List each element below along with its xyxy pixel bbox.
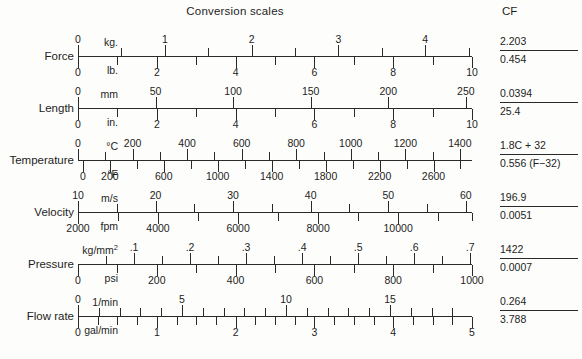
cf-denominator: 0.0051 (500, 208, 580, 223)
axis-tick-label: 0 (80, 170, 86, 182)
axis-tick-label: 1000 (206, 170, 229, 182)
axis-tick (353, 161, 354, 169)
axis-tick-label: 10 (280, 293, 292, 305)
axis-tick (105, 152, 106, 160)
axis-tick-label: 3 (335, 33, 341, 45)
axis-tick-label: 10 (72, 189, 84, 201)
cf-denominator: 0.454 (500, 52, 580, 67)
axis-tick-label: 5 (179, 293, 185, 305)
axis-tick (78, 97, 79, 108)
cf-fraction-bar (500, 258, 578, 259)
axis-tick-label: 4000 (146, 222, 169, 234)
scale-track: 102030405060200040006000800010000 (78, 186, 472, 238)
axis-tick (296, 149, 297, 160)
axis-tick-label: 200 (101, 170, 119, 182)
cf-fraction-bar (500, 310, 578, 311)
axis-tick (78, 149, 79, 160)
axis-tick (120, 308, 121, 316)
axis-tick-label: 2000 (66, 222, 89, 234)
axis-tick-label: 50 (150, 85, 162, 97)
axis-tick (427, 204, 428, 212)
axis-tick (216, 317, 217, 325)
axis-tick (242, 149, 243, 160)
axis-tick-label: 2 (249, 33, 255, 45)
scale-track: .1.2.3.4.5.6.702004006008001000 (78, 238, 472, 290)
axis-tick (196, 57, 197, 65)
axis-tick (134, 253, 135, 264)
axis-tick (137, 317, 138, 325)
axis-tick (98, 317, 99, 325)
axis-tick (311, 97, 312, 108)
axis-tick (214, 152, 215, 160)
axis-tick (358, 253, 359, 264)
axis-tick-label: 30 (227, 189, 239, 201)
axis-tick-label: 0 (75, 137, 81, 149)
axis-tick (386, 256, 387, 264)
axis-tick (390, 305, 391, 316)
axis-tick (388, 97, 389, 108)
axis-tick (196, 109, 197, 117)
axis-tick (165, 45, 166, 56)
axis-tick-label: 600 (155, 170, 173, 182)
axis-tick (246, 253, 247, 264)
axis-tick (286, 305, 287, 316)
axis-tick (99, 308, 100, 316)
axis-tick-label: 10 (466, 118, 478, 130)
axis-tick (374, 317, 375, 325)
scale-row-label: Flow rate (0, 310, 74, 322)
axis-tick-label: .1 (130, 241, 139, 253)
axis-tick (470, 253, 471, 264)
axis-tick (311, 201, 312, 212)
axis-tick (405, 149, 406, 160)
axis-tick (348, 308, 349, 316)
conversion-scales-sheet: Conversion scales CF Forcekg.lb.01234024… (0, 0, 582, 359)
axis-tick (198, 213, 199, 221)
axis-tick-label: 1800 (314, 170, 337, 182)
cf-denominator: 3.788 (500, 312, 580, 327)
axis-tick (117, 204, 118, 212)
cf-fraction-bar (500, 154, 578, 155)
axis-tick (203, 308, 204, 316)
cf-denominator: 25.4 (500, 104, 580, 119)
cf-fraction-bar (500, 50, 578, 51)
axis-tick-label: 4 (390, 326, 396, 338)
axis-tick (255, 317, 256, 325)
axis-tick-label: 1 (162, 33, 168, 45)
cf-numerator: 1422 (500, 242, 580, 257)
axis-tick (472, 213, 473, 221)
scale-row-label: Temperature (0, 154, 74, 166)
axis-tick (433, 109, 434, 117)
axis-tick (275, 57, 276, 65)
axis-tick-label: .4 (298, 241, 307, 253)
axis-tick (369, 308, 370, 316)
axis-tick (460, 161, 461, 169)
axis-tick (274, 256, 275, 264)
scale-row-label: Pressure (0, 258, 74, 270)
axis-tick-label: 100 (224, 85, 242, 97)
axis-tick-label: 800 (384, 274, 402, 286)
cf-numerator: 0.264 (500, 294, 580, 309)
axis-tick (334, 317, 335, 325)
axis-tick-label: 1 (154, 326, 160, 338)
axis-tick (388, 201, 389, 212)
axis-tick-label: 0 (75, 274, 81, 286)
scale-track: 051015012345 (78, 290, 472, 342)
axis-tick (224, 308, 225, 316)
axis-tick-label: 1400 (260, 170, 283, 182)
axis-tick-label: 3 (311, 326, 317, 338)
axis-tick (269, 152, 270, 160)
axis-tick-label: 40 (305, 189, 317, 201)
axis-tick (272, 204, 273, 212)
axis-tick (208, 48, 209, 56)
cf-numerator: 196.9 (500, 190, 580, 205)
axis-tick-label: 0 (75, 85, 81, 97)
axis-tick (411, 308, 412, 316)
cf-denominator: 0.556 (F−32) (500, 156, 580, 171)
axis-tick-label: 600 (233, 137, 251, 149)
axis-tick-label: 20 (150, 189, 162, 201)
axis-tick (349, 204, 350, 212)
axis-tick-label: 200 (379, 85, 397, 97)
axis-tick (187, 149, 188, 160)
axis-tick-label: 0 (75, 326, 81, 338)
scale-row: Lengthmmin.05010015020025002468100.03942… (0, 82, 582, 134)
